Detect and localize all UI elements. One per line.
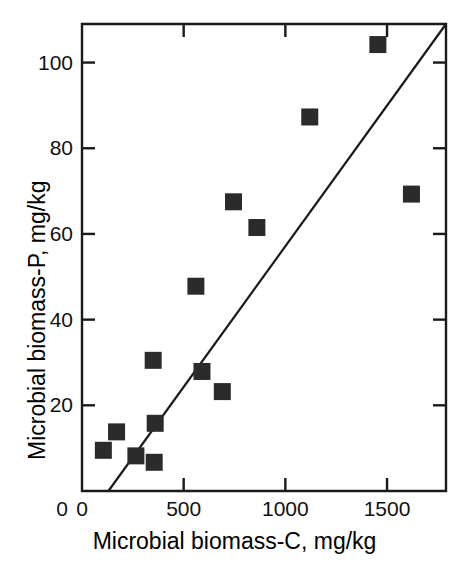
data-point-13 <box>403 186 420 203</box>
data-point-9 <box>225 193 242 210</box>
y-tick-label-60: 60 <box>50 222 73 246</box>
data-point-3 <box>145 352 162 369</box>
x-tick-label-0: 0 <box>76 497 88 521</box>
data-point-7 <box>193 363 210 380</box>
data-point-6 <box>187 278 204 295</box>
data-point-10 <box>248 219 265 236</box>
data-point-8 <box>214 383 231 400</box>
y-tick-label-80: 80 <box>50 136 73 160</box>
y-tick-label-100: 100 <box>38 51 73 75</box>
x-tick-label-500: 500 <box>166 497 201 521</box>
axis-ticks <box>82 24 446 491</box>
axes-frame <box>82 24 446 491</box>
plot-canvas <box>0 0 469 567</box>
y-tick-label-20: 20 <box>50 393 73 417</box>
data-point-4 <box>146 454 163 471</box>
data-point-11 <box>301 108 318 125</box>
data-point-0 <box>95 442 112 459</box>
data-point-1 <box>108 423 125 440</box>
data-point-12 <box>369 36 386 53</box>
data-point-2 <box>127 447 144 464</box>
x-axis-title: Microbial biomass-C, mg/kg <box>0 528 469 555</box>
scatter-chart-figure: 0500100015000 20406080100 Microbial biom… <box>0 0 469 567</box>
x-tick-label-0: 0 <box>56 497 68 521</box>
x-tick-label-1000: 1000 <box>262 497 309 521</box>
x-tick-label-1500: 1500 <box>364 497 411 521</box>
data-point-5 <box>147 415 164 432</box>
y-tick-label-40: 40 <box>50 308 73 332</box>
y-axis-title: Microbial biomass-P, mg/kg <box>24 180 51 460</box>
data-points <box>95 36 420 471</box>
